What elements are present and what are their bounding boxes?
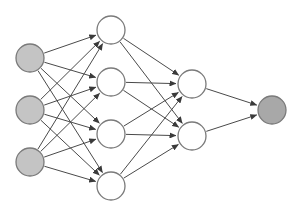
edge-input-3-to-hidden-1-2 <box>41 93 100 151</box>
input-node-2 <box>16 96 44 124</box>
neural-network-diagram <box>0 0 299 217</box>
edge-input-3-to-hidden-1-3 <box>44 139 96 157</box>
hidden-1-node-3 <box>97 120 125 148</box>
edge-hidden-2-2-to-output-1 <box>206 115 257 131</box>
hidden-2-node-1 <box>178 70 206 98</box>
edge-input-2-to-hidden-1-1 <box>41 41 100 99</box>
edge-hidden-2-1-to-output-1 <box>206 89 257 105</box>
edge-hidden-1-4-to-hidden-2-2 <box>124 144 179 178</box>
connection-edges <box>38 35 257 181</box>
input-node-1 <box>16 44 44 72</box>
edge-input-3-to-hidden-1-4 <box>44 166 95 181</box>
hidden-2-node-2 <box>178 122 206 150</box>
hidden-1-node-2 <box>97 68 125 96</box>
hidden-1-node-4 <box>97 172 125 200</box>
output-node-1 <box>258 96 286 124</box>
hidden-1-node-1 <box>97 16 125 44</box>
edge-input-3-to-hidden-1-1 <box>38 44 103 150</box>
network-nodes <box>16 16 286 200</box>
input-node-3 <box>16 148 44 176</box>
edge-hidden-1-2-to-hidden-2-1 <box>126 82 176 83</box>
edge-input-1-to-hidden-1-1 <box>44 35 96 53</box>
